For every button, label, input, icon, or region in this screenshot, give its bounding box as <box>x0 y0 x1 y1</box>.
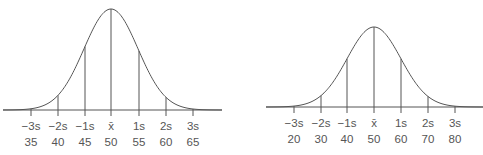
value-label: 35 <box>25 136 38 148</box>
normal-distribution-charts: −3s35−2s40−1s45x̄501s552s603s65 −3s20−2s… <box>0 0 483 155</box>
sd-label: −2s <box>312 117 331 129</box>
value-label: 40 <box>52 136 65 148</box>
sd-label: 3s <box>449 117 461 129</box>
sd-label: 3s <box>187 120 199 132</box>
sd-label: 2s <box>422 117 434 129</box>
sd-label: 1s <box>395 117 407 129</box>
sd-label: 1s <box>133 120 145 132</box>
value-label: 50 <box>368 133 381 145</box>
value-label: 45 <box>79 136 92 148</box>
chart-left-sd5: −3s35−2s40−1s45x̄501s552s603s65 <box>3 9 222 148</box>
value-label: 30 <box>315 133 328 145</box>
sd-label: x̄ <box>108 120 114 132</box>
sd-label: −1s <box>76 120 95 132</box>
sd-label: −3s <box>285 117 304 129</box>
sd-label: −3s <box>22 120 41 132</box>
value-label: 70 <box>422 133 435 145</box>
value-label: 20 <box>288 133 301 145</box>
chart-right-sd10: −3s20−2s30−1s40x̄501s602s703s80 <box>266 27 483 145</box>
sd-label: −1s <box>338 117 357 129</box>
value-label: 60 <box>160 136 173 148</box>
value-label: 80 <box>449 133 462 145</box>
value-label: 40 <box>341 133 354 145</box>
value-label: 60 <box>395 133 408 145</box>
normal-curve <box>3 9 222 110</box>
sd-label: −2s <box>49 120 68 132</box>
sd-label: 2s <box>160 120 172 132</box>
value-label: 50 <box>105 136 118 148</box>
value-label: 55 <box>133 136 146 148</box>
sd-label: x̄ <box>371 117 377 129</box>
value-label: 65 <box>187 136 200 148</box>
